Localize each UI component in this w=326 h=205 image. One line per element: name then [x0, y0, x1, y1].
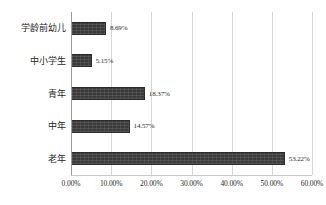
x-tick-label: 0.00% — [62, 180, 81, 188]
x-tick-label: 50.00% — [261, 180, 284, 188]
category-label: 中小学生 — [0, 56, 66, 65]
category-label: 老年 — [0, 154, 66, 163]
x-tick-label: 40.00% — [220, 180, 243, 188]
bar-value-label: 53.22% — [289, 155, 310, 162]
bar[interactable] — [71, 54, 92, 67]
category-label: 青年 — [0, 89, 66, 98]
plot-area: 8.69%5.15%18.37%14.57%53.22% — [71, 12, 312, 175]
x-tick-label: 30.00% — [180, 180, 203, 188]
bar-row: 53.22% — [71, 152, 312, 165]
bar-row: 18.37% — [71, 87, 312, 100]
y-axis-line — [71, 12, 72, 175]
bar-value-label: 18.37% — [149, 90, 170, 97]
bar-chart: 8.69%5.15%18.37%14.57%53.22% 学龄前幼儿中小学生青年… — [0, 0, 326, 205]
category-label: 学龄前幼儿 — [0, 24, 66, 33]
bar[interactable] — [71, 22, 106, 35]
category-label: 中年 — [0, 122, 66, 131]
bar-value-label: 14.57% — [134, 123, 155, 130]
gridline — [312, 12, 313, 175]
bar[interactable] — [71, 120, 130, 133]
bar-row: 14.57% — [71, 120, 312, 133]
x-axis-line — [71, 175, 312, 176]
bar-value-label: 8.69% — [110, 25, 128, 32]
bar-row: 8.69% — [71, 22, 312, 35]
x-tick-label: 20.00% — [140, 180, 163, 188]
x-tick-label: 10.00% — [100, 180, 123, 188]
bar[interactable] — [71, 152, 285, 165]
bar-row: 5.15% — [71, 54, 312, 67]
x-tick-label: 60.00% — [301, 180, 324, 188]
bar[interactable] — [71, 87, 145, 100]
bar-value-label: 5.15% — [96, 57, 114, 64]
